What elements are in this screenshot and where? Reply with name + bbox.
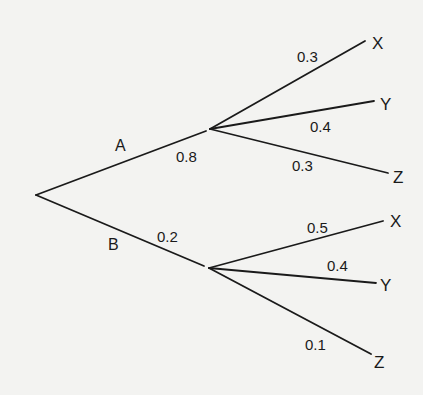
branch-b-line (36, 195, 204, 266)
branch-a-y-probability: 0.4 (310, 118, 331, 135)
branch-b-y-probability: 0.4 (327, 257, 348, 274)
branch-b-children: 0.5 X 0.4 Y 0.1 Z (209, 212, 401, 372)
branch-a-x-probability: 0.3 (297, 48, 318, 65)
branch-a-probability: 0.8 (176, 148, 197, 165)
branch-a-event-label: A (115, 137, 126, 154)
branch-b-z-outcome: Z (374, 353, 384, 372)
probability-tree: A 0.8 B 0.2 0.3 X 0.4 Y 0.3 Z 0.5 X 0.4 … (0, 0, 423, 395)
branch-a-z-probability: 0.3 (292, 157, 313, 174)
branch-a-y-outcome: Y (380, 95, 391, 114)
branch-a-x-outcome: X (372, 34, 383, 53)
branch-b-x-probability: 0.5 (307, 219, 328, 236)
branch-a: A 0.8 (36, 131, 206, 195)
branch-a-children: 0.3 X 0.4 Y 0.3 Z (210, 34, 403, 187)
branch-b-y-outcome: Y (380, 276, 391, 295)
branch-b-x-line (209, 221, 383, 268)
branch-b-x-outcome: X (390, 212, 401, 231)
branch-a-z-outcome: Z (393, 168, 403, 187)
branch-b: B 0.2 (36, 195, 204, 266)
branch-b-probability: 0.2 (157, 228, 178, 245)
branch-b-z-probability: 0.1 (305, 336, 326, 353)
branch-b-event-label: B (108, 236, 119, 253)
